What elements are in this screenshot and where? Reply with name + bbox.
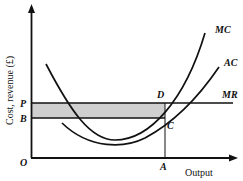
mc-label: MC — [214, 24, 231, 35]
x-axis-arrow-icon — [229, 155, 238, 162]
d-label: D — [156, 89, 164, 100]
a-label: A — [159, 161, 167, 172]
p-label: P — [20, 98, 27, 109]
y-axis-arrow-icon — [28, 4, 35, 13]
mr-label: MR — [221, 89, 238, 100]
c-label: C — [167, 120, 174, 131]
origin-label: O — [20, 157, 27, 168]
y-axis-label: Cost, revenue (£) — [4, 56, 16, 125]
ac-label: AC — [223, 57, 238, 68]
profit-area — [32, 103, 165, 118]
diagram-canvas: Cost, revenue (£) Output O P B D C A MC … — [0, 0, 243, 181]
cost-revenue-diagram: Cost, revenue (£) Output O P B D C A MC … — [0, 0, 243, 181]
mc-curve — [46, 33, 205, 140]
x-axis-label: Output — [185, 167, 213, 178]
b-label: B — [19, 113, 27, 124]
